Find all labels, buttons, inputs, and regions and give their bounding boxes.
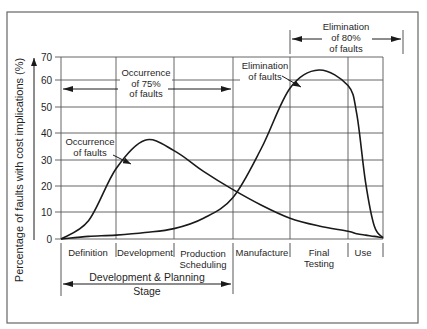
svg-text:30: 30: [41, 155, 53, 166]
svg-text:of faults: of faults: [129, 88, 163, 99]
svg-text:10: 10: [41, 207, 53, 218]
svg-text:0: 0: [46, 234, 52, 245]
y-axis-ticks: 0 10 20 30 40 50 60 70: [41, 52, 53, 245]
stage-development: Development: [117, 247, 173, 258]
svg-text:50: 50: [41, 102, 53, 113]
svg-text:Scheduling: Scheduling: [179, 259, 226, 270]
stage-production-scheduling: Production: [180, 248, 225, 259]
svg-text:Testing: Testing: [304, 258, 334, 269]
stage-labels: Definition Development Production Schedu…: [68, 247, 371, 270]
label-elimination-curve: Elimination of faults: [240, 60, 301, 87]
fault-occurrence-elimination-chart: 0 10 20 30 40 50 60 70 Percentage of fau…: [0, 0, 427, 329]
stage-final-testing: Final: [309, 247, 330, 258]
svg-text:of faults: of faults: [73, 147, 107, 158]
svg-text:Stage: Stage: [133, 285, 161, 297]
annotation-elimination-80: Elimination of 80% of faults: [290, 21, 403, 54]
stage-manufacture: Manufacture: [236, 247, 289, 258]
svg-text:of faults: of faults: [329, 43, 363, 54]
svg-text:of 80%: of 80%: [331, 32, 361, 43]
figure-frame: [7, 12, 418, 323]
svg-text:20: 20: [41, 181, 53, 192]
dev-stage-label: Development & Planning: [89, 271, 205, 283]
svg-text:70: 70: [41, 52, 53, 63]
annotation-occurrence-75: Occurrence of 75% of faults: [63, 67, 231, 99]
svg-text:60: 60: [41, 75, 53, 86]
svg-text:Elimination: Elimination: [242, 60, 288, 71]
stage-definition: Definition: [68, 247, 108, 258]
svg-text:Occurrence: Occurrence: [65, 136, 114, 147]
svg-text:of faults: of faults: [248, 71, 282, 82]
svg-text:Elimination: Elimination: [323, 21, 369, 32]
stage-use: Use: [355, 247, 372, 258]
y-axis-label: Percentage of faults with cost implicati…: [13, 58, 25, 282]
svg-text:40: 40: [41, 128, 53, 139]
svg-text:Occurrence: Occurrence: [121, 67, 170, 78]
